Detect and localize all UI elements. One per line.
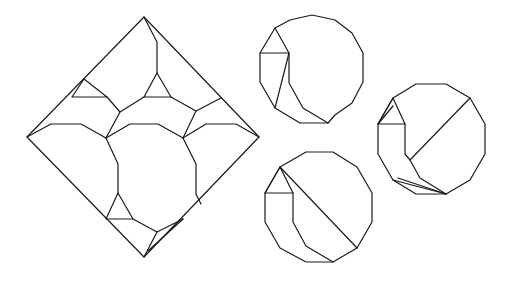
diamond-dissection-edge <box>27 17 259 257</box>
diamond-dissection-edge <box>107 97 144 112</box>
diamond-dissection-edge <box>72 79 107 97</box>
dodecagon-bottom-edge <box>265 167 293 193</box>
dissection-diagram <box>0 0 509 281</box>
diamond-dissection-edge <box>171 97 221 111</box>
dodecagon-right-edge <box>398 178 446 194</box>
diamond-dissection-edge <box>27 124 106 138</box>
diamond-dissection-edge <box>148 219 183 251</box>
dodecagon-bottom-edge <box>293 193 333 262</box>
dodecagon-right-figure <box>378 84 485 194</box>
dodecagon-right-edge <box>378 98 405 124</box>
dodecagon-right-edge <box>378 106 393 124</box>
diamond-dissection-edge <box>144 73 171 97</box>
diamond-dissection-edge <box>183 138 201 204</box>
dodecagon-top-figure <box>260 15 363 123</box>
diamond-dissection-figure <box>27 17 259 257</box>
dodecagon-right-edge <box>405 98 470 160</box>
diamond-dissection-edge <box>106 193 133 219</box>
diamond-dissection-edge <box>106 138 118 193</box>
dodecagon-bottom-figure <box>265 152 372 262</box>
diamond-dissection-edge <box>144 17 157 73</box>
dodecagon-bottom-edge <box>280 167 357 248</box>
dodecagon-top-edge <box>275 53 289 108</box>
diamond-dissection-edge <box>106 124 183 138</box>
diamond-dissection-edge <box>183 124 259 138</box>
